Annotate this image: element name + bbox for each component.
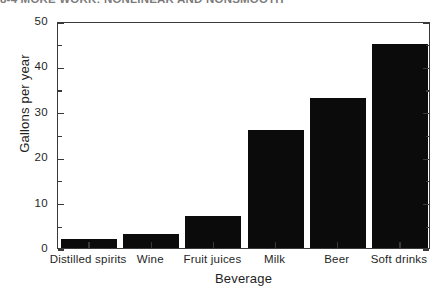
y-axis-tick — [58, 159, 64, 160]
y-axis-tick — [58, 227, 62, 228]
y-axis-tick — [58, 45, 62, 46]
x-axis-tick-label: Milk — [264, 253, 285, 266]
y-axis-tick — [58, 136, 62, 137]
x-axis-tick-label: Fruit juices — [183, 253, 241, 266]
x-axis-tick-label: Beer — [324, 253, 349, 266]
y-axis-tick — [426, 181, 430, 182]
y-axis-tick — [58, 90, 62, 91]
x-axis-tick-label: Distilled spirits — [50, 253, 127, 266]
y-axis-tick — [423, 68, 429, 69]
plot-area — [57, 22, 430, 249]
bar-chart-figure: 01020304050 Gallons per year Distilled s… — [0, 0, 445, 297]
y-axis-tick — [426, 90, 430, 91]
y-axis-tick — [58, 113, 64, 114]
y-axis-tick — [426, 136, 430, 137]
y-axis-title: Gallons per year — [17, 24, 32, 184]
x-axis-tick — [88, 242, 89, 248]
x-axis-tick-labels: Distilled spiritsWineFruit juicesMilkBee… — [57, 253, 430, 269]
x-axis-tick — [337, 242, 338, 248]
x-axis-tick — [151, 242, 152, 248]
y-axis-tick — [423, 249, 429, 250]
y-axis-tick — [58, 181, 62, 182]
y-axis-tick — [58, 68, 64, 69]
y-axis-tick — [426, 45, 430, 46]
y-axis-tick-label: 50 — [35, 16, 48, 28]
y-axis-tick — [58, 249, 64, 250]
y-axis-tick — [58, 22, 64, 23]
x-axis-tick — [275, 242, 276, 248]
bar-series — [58, 23, 429, 248]
x-axis-tick-label: Soft drinks — [371, 253, 428, 266]
x-axis-title: Beverage — [57, 271, 430, 286]
bar — [310, 98, 366, 248]
bar — [372, 44, 428, 248]
y-axis-tick-label: 30 — [35, 107, 48, 119]
y-axis-tick-label: 10 — [35, 198, 48, 210]
y-axis-tick — [423, 159, 429, 160]
x-axis-tick — [399, 242, 400, 248]
y-axis-tick — [426, 227, 430, 228]
x-axis-tick-label: Wine — [137, 253, 164, 266]
y-axis-tick — [423, 113, 429, 114]
y-axis-tick — [58, 204, 64, 205]
y-axis-tick — [423, 204, 429, 205]
y-axis-tick — [423, 22, 429, 23]
bar — [248, 130, 304, 248]
y-axis-tick-label: 0 — [41, 243, 48, 255]
x-axis-tick — [213, 242, 214, 248]
y-axis-tick-label: 40 — [35, 61, 48, 73]
y-axis-tick-label: 20 — [35, 152, 48, 164]
